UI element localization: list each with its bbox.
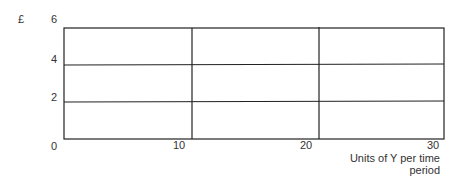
plot-frame bbox=[64, 28, 444, 139]
grid-line-y4 bbox=[64, 64, 444, 65]
x-tick-10: 10 bbox=[173, 139, 185, 151]
y-axis-unit: £ bbox=[18, 13, 24, 25]
y-tick-4: 4 bbox=[51, 53, 57, 65]
y-tick-2: 2 bbox=[51, 91, 57, 103]
x-tick-20: 20 bbox=[300, 139, 312, 151]
x-tick-30: 30 bbox=[427, 139, 439, 151]
origin-label: 0 bbox=[51, 140, 57, 152]
grid-line-y2 bbox=[64, 101, 444, 102]
x-axis-label-line1: Units of Y per time bbox=[300, 152, 440, 164]
x-axis-label-line2: period bbox=[300, 164, 440, 176]
y-tick-6: 6 bbox=[51, 13, 57, 25]
